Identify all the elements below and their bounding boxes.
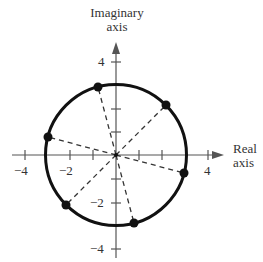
- imaginary-axis-title-line1: Imaginary: [86, 6, 148, 20]
- complex-plane-diagram: [0, 0, 263, 262]
- y-tick-label-neg2: −2: [90, 196, 104, 210]
- point-285deg: [130, 219, 139, 228]
- point-345deg: [180, 169, 189, 178]
- x-tick-label-4: 4: [204, 164, 211, 178]
- point-165deg: [44, 133, 53, 142]
- real-axis-title-line2: axis: [233, 156, 257, 170]
- real-axis-title: Real axis: [233, 142, 257, 170]
- x-tick-label-neg4: −4: [14, 164, 28, 178]
- real-axis-arrow-icon: [212, 151, 224, 159]
- point-105deg: [94, 83, 103, 92]
- point-45deg: [162, 101, 171, 110]
- imaginary-axis-arrow-icon: [112, 42, 120, 54]
- origin-dot: [114, 153, 118, 157]
- y-tick-label-4: 4: [98, 55, 105, 69]
- imaginary-axis-title-line2: axis: [86, 20, 148, 34]
- real-axis-title-line1: Real: [233, 142, 257, 156]
- x-tick-label-neg2: −2: [59, 164, 73, 178]
- y-tick-label-neg4: −4: [90, 242, 104, 256]
- imaginary-axis-title: Imaginary axis: [86, 6, 148, 34]
- point-225deg: [62, 201, 71, 210]
